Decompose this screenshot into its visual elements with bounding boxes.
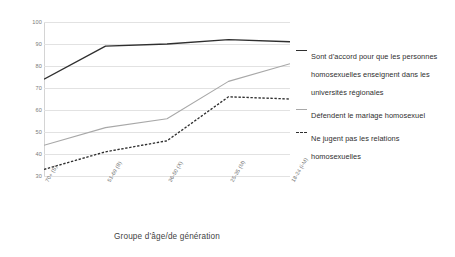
chart-legend: Sont d’accord pour que les personnes hom… xyxy=(296,45,451,168)
chart-figure: 10090807060504030 70+ (S)51-69 (B)36-50 … xyxy=(0,0,455,257)
series-line xyxy=(44,64,290,145)
y-axis-tick-label: 50 xyxy=(8,129,42,135)
legend-swatch-icon xyxy=(296,132,307,133)
plot-area xyxy=(44,22,290,176)
legend-label: Sont d’accord pour que les personnes hom… xyxy=(311,52,437,97)
y-axis-tick-labels: 10090807060504030 xyxy=(0,0,42,199)
legend-entry[interactable]: Défendent le mariage homosexuel xyxy=(296,104,451,122)
y-axis-tick-label: 90 xyxy=(8,41,42,47)
y-axis-tick-label: 30 xyxy=(8,173,42,179)
x-axis-tick-labels: 70+ (S)51-69 (B)36-50 (X)25-35 (M)18-24 … xyxy=(44,178,290,226)
y-axis-tick-label: 80 xyxy=(8,63,42,69)
legend-entry[interactable]: Sont d’accord pour que les personnes hom… xyxy=(296,45,451,99)
legend-entry[interactable]: Ne jugent pas les relations homosexuelle… xyxy=(296,127,451,163)
grid-line xyxy=(44,176,290,177)
legend-label: Défendent le mariage homosexuel xyxy=(311,111,425,120)
y-axis-tick-label: 40 xyxy=(8,151,42,157)
legend-swatch-icon xyxy=(296,50,307,51)
series-line xyxy=(44,97,290,170)
series-lines xyxy=(44,22,290,176)
y-axis-tick-label: 60 xyxy=(8,107,42,113)
legend-swatch-icon xyxy=(296,109,307,110)
legend-label: Ne jugent pas les relations homosexuelle… xyxy=(311,134,399,161)
x-axis-title: Groupe d’âge/de génération xyxy=(44,232,290,241)
series-line xyxy=(44,40,290,80)
y-axis-tick-label: 100 xyxy=(8,19,42,25)
y-axis-tick-label: 70 xyxy=(8,85,42,91)
